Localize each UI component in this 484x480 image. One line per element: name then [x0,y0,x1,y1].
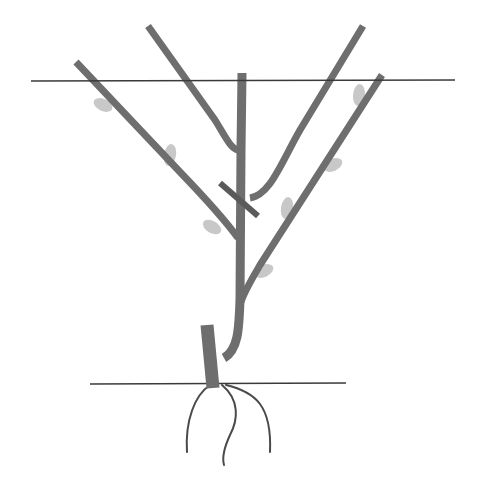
trunk-stub [207,325,213,388]
support-wire [31,80,455,81]
pruning-diagram [0,0,484,480]
